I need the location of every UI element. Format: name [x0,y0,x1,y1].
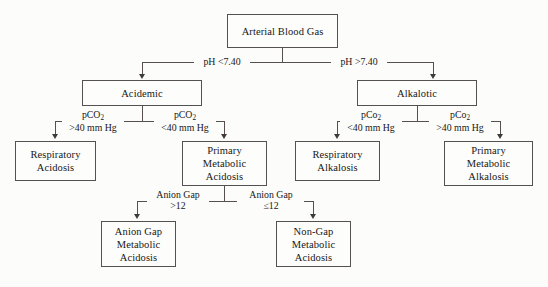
node-anion-gap-metabolic-acidosis[interactable]: Anion Gap Metabolic Acidosis [101,221,176,267]
abg-flowchart: Arterial Blood Gas pH <7.40 pH >7.40 Aci… [0,0,548,287]
connector-ph-bar-left2 [246,62,282,63]
node-line: Respiratory [30,148,80,161]
edge-label-line1: pCo2 [342,109,400,122]
connector-ph-bar-left [142,62,194,63]
edge-label-line1: pCo2 [431,109,489,122]
node-line: Acidosis [206,170,244,183]
arrowhead-respiratory-acidosis [52,134,58,139]
node-non-gap-metabolic-acidosis[interactable]: Non-Gap Metabolic Acidosis [276,221,351,267]
connector-drop-prim-met-alkalosis [500,121,501,135]
connector-drop-resp-alkalosis [337,121,338,135]
connector-alkalotic-stem [417,106,418,121]
connector-ph-bar-right [282,62,331,63]
arrowhead-primary-metabolic-alkalosis [497,134,503,139]
edge-label-pco2-low-left: pCO2 <40 mm Hg [154,109,216,133]
edge-label-anion-gap-high: Anion Gap >12 [147,189,209,211]
edge-label-pco2-low-right: pCo2 <40 mm Hg [340,109,402,133]
node-arterial-blood-gas[interactable]: Arterial Blood Gas [227,14,338,48]
node-line: Primary [207,144,242,157]
node-respiratory-alkalosis[interactable]: Respiratory Alkalosis [295,141,380,181]
node-line: Metabolic [292,238,335,251]
node-line: Primary [471,144,506,157]
arrowhead-alkalotic [430,74,436,79]
node-line: Acidosis [37,161,75,174]
edge-label-line1: pCO2 [64,109,122,122]
node-line: Acidosis [295,251,333,264]
connector-drop-anion-gap-acidosis [137,201,138,215]
arrowhead-non-gap-metabolic-acidosis [310,214,316,219]
node-line: Respiratory [312,148,362,161]
connector-ag-bar-mid2 [224,201,237,202]
connector-drop-non-gap-acidosis [313,201,314,215]
node-alkalotic[interactable]: Alkalotic [357,80,477,106]
node-line: Alkalosis [468,170,509,183]
node-line: Acidemic [121,87,163,100]
node-primary-metabolic-alkalosis[interactable]: Primary Metabolic Alkalosis [444,141,533,186]
connector-drop-resp-acidosis [55,121,56,135]
node-line: Arterial Blood Gas [242,25,324,38]
arrowhead-primary-metabolic-acidosis [221,134,227,139]
node-primary-metabolic-acidosis[interactable]: Primary Metabolic Acidosis [182,141,267,186]
arrowhead-anion-gap-metabolic-acidosis [134,214,140,219]
connector-acidemic-stem [142,106,143,121]
node-line: Alkalotic [397,87,437,100]
connector-prim-met-acid-stem [224,186,225,201]
edge-label-pco2-high-right: pCo2 >40 mm Hg [429,109,491,133]
arrowhead-acidemic [139,74,145,79]
edge-label-line1: pCO2 [156,109,214,122]
node-line: Anion Gap [115,225,162,238]
edge-label-ph-high: pH >7.40 [331,56,387,67]
node-line: Metabolic [467,157,510,170]
arrowhead-respiratory-alkalosis [334,134,340,139]
connector-ag-bar-left [137,201,147,202]
node-line: Metabolic [117,238,160,251]
edge-label-pco2-high-left: pCO2 >40 mm Hg [62,109,124,133]
connector-drop-prim-met-acidosis [224,121,225,135]
node-line: Acidosis [120,251,158,264]
node-line: Metabolic [203,157,246,170]
edge-label-ph-low: pH <7.40 [194,56,250,67]
node-line: Alkalosis [317,161,358,174]
edge-label-anion-gap-low: Anion Gap ≤12 [238,189,304,211]
connector-root-stem [282,48,283,62]
node-respiratory-acidosis[interactable]: Respiratory Acidosis [15,141,96,181]
connector-ph-bar-right2 [383,62,433,63]
node-acidemic[interactable]: Acidemic [82,80,202,106]
node-line: Non-Gap [294,225,334,238]
